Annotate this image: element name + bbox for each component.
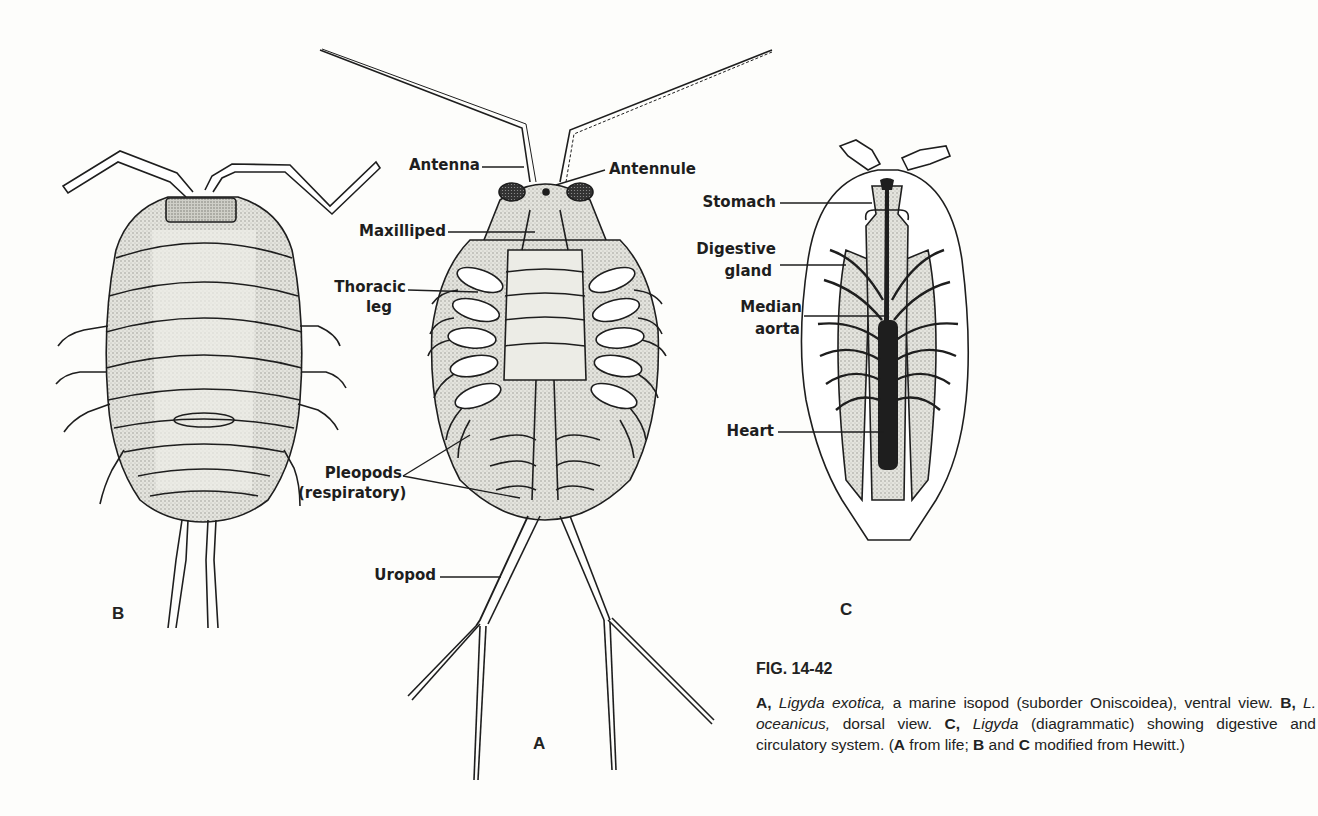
caption-c-letter: C,: [945, 715, 961, 732]
caption-source-and: and: [984, 736, 1018, 753]
label-antennule: Antennule: [609, 160, 696, 179]
label-stomach: Stomach: [660, 193, 776, 212]
label-digestive-gland-line1: Digestive: [660, 240, 776, 259]
label-pleopods-line1: Pleopods: [300, 464, 402, 483]
label-pleopods-line2: (respiratory): [298, 484, 406, 503]
panel-letter-a: A: [533, 734, 545, 754]
label-maxilliped: Maxilliped: [334, 222, 446, 241]
figure-b-isopod-dorsal: [56, 151, 380, 628]
label-thoracic-leg-line1: Thoracic: [316, 278, 406, 297]
panel-letter-c: C: [840, 600, 852, 620]
label-heart: Heart: [660, 422, 774, 441]
label-digestive-gland-line2: gland: [660, 262, 772, 281]
caption-source-a-text: from life;: [905, 736, 973, 753]
label-median-aorta-line1: Median: [660, 298, 802, 317]
label-antenna: Antenna: [400, 156, 480, 175]
caption-source-b: B: [973, 736, 984, 753]
caption-b-desc: dorsal view.: [830, 715, 944, 732]
caption-a-desc: a marine isopod (suborder Oniscoidea), v…: [885, 694, 1280, 711]
caption-b-letter: B,: [1280, 694, 1296, 711]
caption-a-species: Ligyda exotica,: [779, 694, 885, 711]
panel-letter-b: B: [112, 604, 124, 624]
figure-c-digestive-circulatory-diagram: [801, 140, 968, 540]
caption-c-species: Ligyda: [973, 715, 1019, 732]
caption-a-letter: A,: [756, 694, 772, 711]
caption-text: A, Ligyda exotica, a marine isopod (subo…: [756, 692, 1316, 755]
label-thoracic-leg-line2: leg: [316, 298, 392, 317]
caption-source-end: modified from Hewitt.): [1030, 736, 1185, 753]
figure-caption: FIG. 14-42 A, Ligyda exotica, a marine i…: [756, 660, 1316, 755]
label-uropod: Uropod: [330, 566, 436, 585]
figure-a-isopod-ventral: [320, 49, 772, 780]
caption-source-a: A: [894, 736, 905, 753]
caption-source-c: C: [1019, 736, 1030, 753]
label-median-aorta-line2: aorta: [660, 320, 800, 339]
figure-number: FIG. 14-42: [756, 660, 1316, 678]
